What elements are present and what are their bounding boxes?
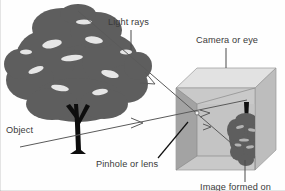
pinhole-aperture bbox=[195, 111, 199, 115]
camera-cube bbox=[176, 68, 276, 170]
pinhole-camera-diagram: Light rays Camera or eye Object Pinhole … bbox=[0, 0, 285, 191]
label-light-rays: Light rays bbox=[108, 18, 149, 27]
label-object: Object bbox=[6, 126, 33, 135]
label-camera-or-eye: Camera or eye bbox=[196, 36, 258, 45]
label-image-formed-on: Image formed on bbox=[200, 183, 271, 191]
label-pinhole-or-lens: Pinhole or lens bbox=[96, 160, 158, 169]
